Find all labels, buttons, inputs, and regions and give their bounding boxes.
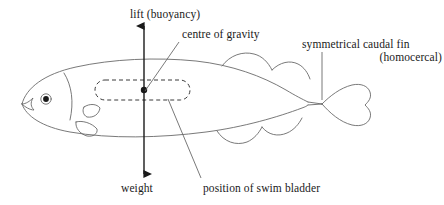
swim-bladder-leader (168, 99, 201, 178)
centre-of-gravity-leader (145, 42, 179, 91)
fish-buoyancy-diagram: lift (buoyancy) centre of gravity symmet… (0, 0, 444, 205)
label-weight: weight (121, 182, 153, 195)
eye-pupil (43, 96, 49, 102)
label-lift: lift (buoyancy) (130, 8, 200, 21)
label-swim-bladder: position of swim bladder (203, 182, 320, 195)
caudal-fin (322, 84, 371, 125)
gill-cover (64, 73, 72, 120)
body-outline-ventral (22, 104, 308, 137)
label-homocercal: (homocercal) (302, 51, 442, 64)
dorsal-fin-second (272, 62, 310, 79)
anal-fin-second (262, 118, 302, 135)
label-centre-of-gravity: centre of gravity (182, 28, 260, 41)
pelvic-fin (76, 121, 97, 136)
pectoral-fin (83, 104, 100, 117)
label-caudal-fin: symmetrical caudal fin (302, 38, 410, 51)
body-outline-dorsal (22, 59, 308, 104)
caudal-peduncle-lower (308, 104, 322, 105)
